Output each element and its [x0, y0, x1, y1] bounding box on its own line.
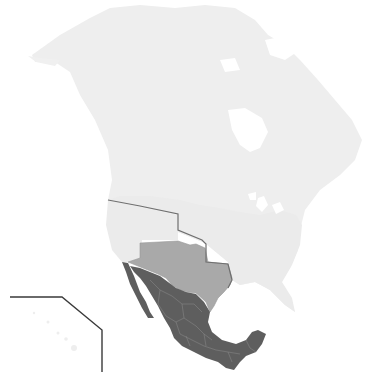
hawaii-islands: [33, 312, 77, 351]
map-container: [0, 0, 368, 378]
north-america-map: [0, 0, 368, 378]
hawaii-inset: [10, 297, 102, 372]
